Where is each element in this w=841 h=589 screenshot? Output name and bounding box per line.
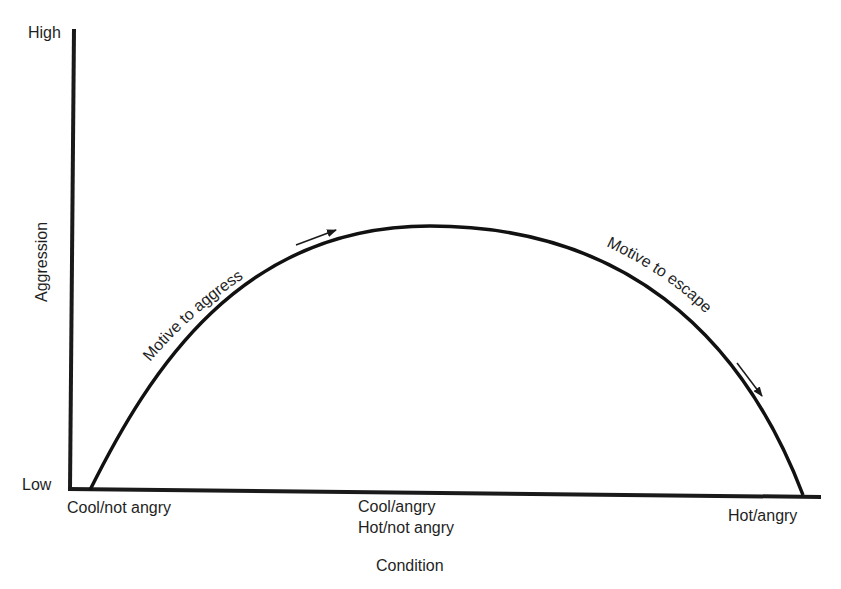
y-tick-high: High	[28, 24, 61, 41]
aggression-curve	[90, 226, 803, 495]
x-category-hot-not-angry: Hot/not angry	[358, 519, 454, 536]
annotation-motive-to-escape-text: Motive to escape	[605, 233, 716, 315]
y-axis	[70, 29, 74, 490]
x-axis	[68, 489, 821, 497]
annotation-motive-to-escape: Motive to escape	[605, 233, 716, 315]
x-category-cool-not-angry: Cool/not angry	[67, 499, 171, 516]
x-axis-title: Condition	[376, 557, 444, 574]
y-axis-title: Aggression	[33, 222, 50, 302]
y-tick-low: Low	[22, 476, 52, 493]
x-category-cool-angry: Cool/angry	[358, 498, 435, 515]
x-category-hot-angry: Hot/angry	[728, 507, 797, 524]
annotation-motive-to-aggress-text: Motive to aggress	[139, 266, 245, 363]
annotation-motive-to-aggress: Motive to aggress	[139, 266, 245, 363]
chart: High Low Aggression Cool/not angry Cool/…	[0, 0, 841, 589]
